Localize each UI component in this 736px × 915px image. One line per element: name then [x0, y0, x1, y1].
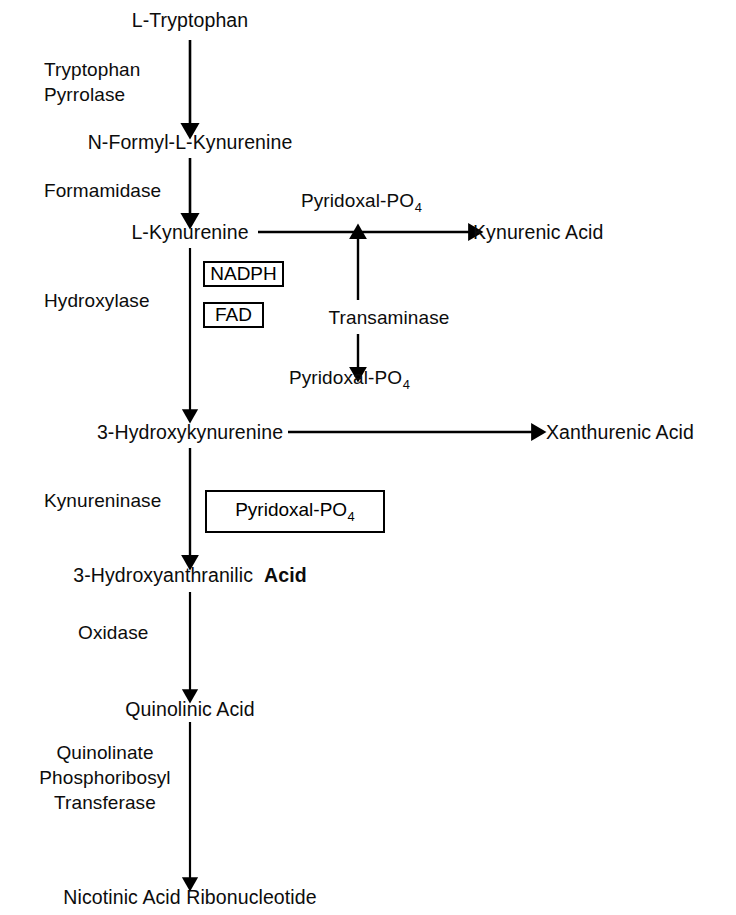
cofactor-pyridoxal-po4-input: Pyridoxal-PO4: [301, 188, 422, 216]
node-xanthurenic-acid: Xanthurenic Acid: [546, 420, 694, 446]
node-3-hydroxyanthranilic-acid: 3-Hydroxyanthranilic Acid: [73, 563, 306, 589]
enzyme-quinolinate-phosphoribosyl-transferase: Quinolinate Phosphoribosyl Transferase: [39, 740, 170, 815]
pyridoxal-po4-output-base: Pyridoxal-PO: [289, 367, 402, 388]
cofactor-box-nadph: NADPH: [203, 261, 284, 287]
node-nicotinic-acid-ribonucleotide: Nicotinic Acid Ribonucleotide: [63, 885, 316, 911]
pyridoxal-po4-input-subscript: 4: [414, 200, 422, 215]
tryptophan-pyrrolase-line-1: Tryptophan: [44, 57, 140, 82]
cofactor-box-fad: FAD: [203, 302, 264, 328]
pyridoxal-po4-input-base: Pyridoxal-PO: [301, 190, 414, 211]
enzyme-tryptophan-pyrrolase: Tryptophan Pyrrolase: [44, 57, 140, 107]
quinolinate-prt-line-2: Phosphoribosyl: [39, 765, 170, 790]
enzyme-formamidase: Formamidase: [44, 178, 161, 203]
node-l-tryptophan: L-Tryptophan: [132, 8, 248, 34]
cofactor-box-pyridoxal-po4-kynureninase: Pyridoxal-PO4: [205, 490, 385, 533]
quinolinate-prt-line-1: Quinolinate: [39, 740, 170, 765]
pyridoxal-po4-output-subscript: 4: [402, 377, 410, 392]
enzyme-hydroxylase: Hydroxylase: [44, 288, 150, 313]
enzyme-kynureninase: Kynureninase: [44, 488, 161, 513]
node-3-hydroxykynurenine: 3-Hydroxykynurenine: [97, 420, 283, 446]
pyridoxal-po4-boxed: Pyridoxal-PO4: [228, 499, 362, 524]
pyridoxal-po4-boxed-subscript: 4: [347, 509, 355, 524]
enzyme-transaminase: Transaminase: [329, 305, 450, 330]
node-l-kynurenine: L-Kynurenine: [131, 220, 248, 246]
node-n-formyl-l-kynurenine: N-Formyl-L-Kynurenine: [88, 130, 293, 156]
fad-label: FAD: [208, 304, 259, 326]
pathway-diagram: L-Tryptophan N-Formyl-L-Kynurenine L-Kyn…: [0, 0, 736, 915]
hydroxyanthranilic-prefix: 3-Hydroxyanthranilic: [73, 564, 253, 586]
node-quinolinic-acid: Quinolinic Acid: [125, 697, 254, 723]
hydroxyanthranilic-suffix: Acid: [264, 564, 307, 586]
nadph-label: NADPH: [203, 263, 284, 285]
pyridoxal-po4-boxed-base: Pyridoxal-PO: [235, 499, 347, 520]
tryptophan-pyrrolase-line-2: Pyrrolase: [44, 82, 140, 107]
quinolinate-prt-line-3: Transferase: [39, 790, 170, 815]
cofactor-pyridoxal-po4-output: Pyridoxal-PO4: [289, 365, 410, 393]
enzyme-oxidase: Oxidase: [78, 620, 148, 645]
node-kynurenic-acid: Kynurenic Acid: [473, 220, 603, 246]
